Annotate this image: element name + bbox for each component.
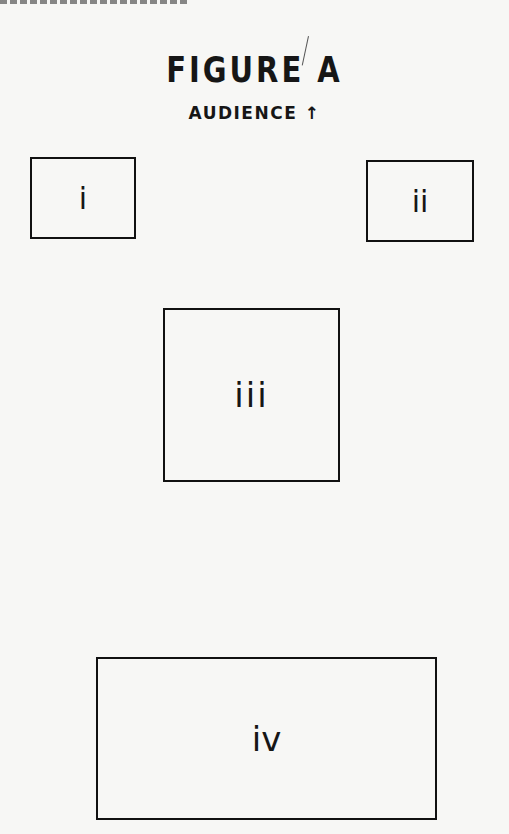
figure-title: FIGURE A — [0, 48, 509, 91]
figure-subtitle: AUDIENCE ↑ — [0, 103, 509, 123]
box-label: i — [79, 181, 87, 216]
box-ii: ii — [366, 160, 474, 242]
box-i: i — [30, 157, 136, 239]
box-label: iv — [252, 719, 282, 759]
audience-label: AUDIENCE — [189, 103, 298, 123]
box-iii: iii — [163, 308, 340, 482]
up-arrow-icon: ↑ — [305, 103, 321, 123]
box-label: ii — [412, 184, 429, 219]
box-label: iii — [234, 375, 268, 415]
clipped-header-text — [0, 0, 190, 4]
box-iv: iv — [96, 657, 437, 820]
